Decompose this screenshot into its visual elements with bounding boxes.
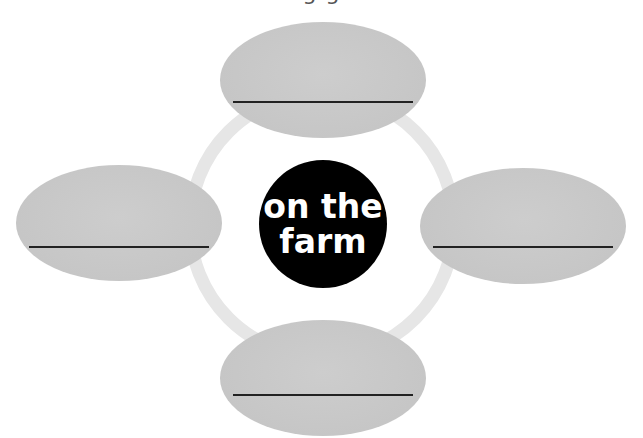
write-line-right bbox=[433, 246, 613, 248]
oval-top bbox=[220, 22, 426, 138]
oval-bottom bbox=[220, 320, 426, 436]
write-line-left bbox=[29, 246, 209, 248]
oval-left bbox=[16, 165, 222, 281]
oval-right bbox=[420, 168, 626, 284]
write-line-bottom bbox=[233, 394, 413, 396]
center-label-line1: on the bbox=[263, 189, 382, 224]
write-line-top bbox=[233, 101, 413, 103]
center-topic-circle: on the farm bbox=[259, 160, 387, 288]
center-label-line2: farm bbox=[279, 224, 366, 259]
